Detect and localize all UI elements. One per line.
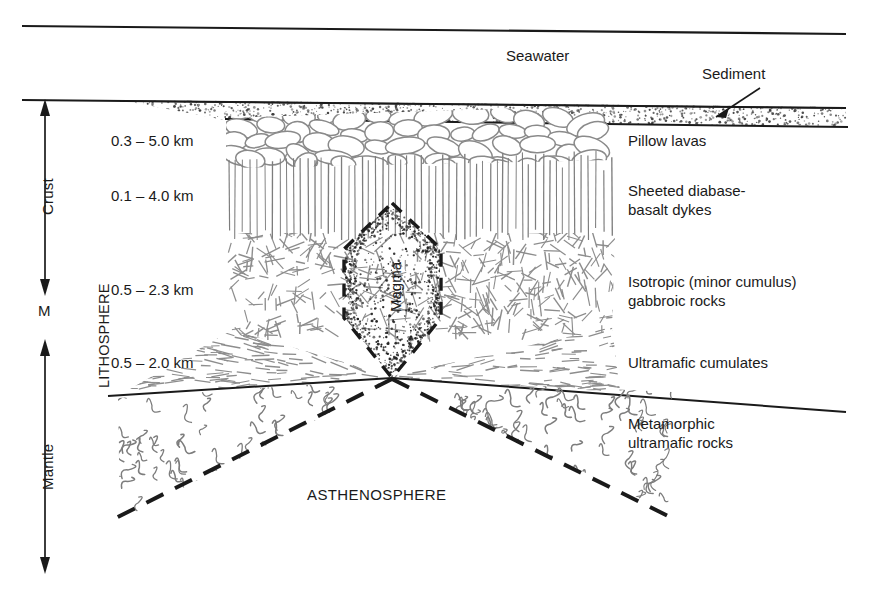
gabbro-texture xyxy=(227,225,618,344)
thickness-sheeted-dykes: 0.1 – 4.0 km xyxy=(111,186,194,205)
lithosphere-label: LITHOSPHERE xyxy=(95,283,114,388)
metamorphic-ultramafic-texture xyxy=(100,382,694,553)
layer-name-isotropic-gabbro: Isotropic (minor cumulus) gabbroic rocks xyxy=(628,272,796,310)
layer-name-sheeted-dykes: Sheeted diabase- basalt dykes xyxy=(628,181,746,219)
seawater-label: Seawater xyxy=(506,46,569,65)
moho-line xyxy=(108,378,846,412)
mantle-axis-label: Mantle xyxy=(38,444,57,490)
thickness-pillow-lavas: 0.3 – 5.0 km xyxy=(111,131,194,150)
thickness-ultramafic-cumulates: 0.5 – 2.0 km xyxy=(111,353,194,372)
figure-canvas: Seawater Sediment Crust M Mantle LITHOSP… xyxy=(0,0,871,601)
top-border-line xyxy=(22,26,846,34)
layer-name-ultramafic-cumulates: Ultramafic cumulates xyxy=(628,353,768,372)
pillow-lavas-texture xyxy=(219,100,613,189)
crust-axis-label: Crust xyxy=(38,178,57,215)
asthenosphere-label: ASTHENOSPHERE xyxy=(307,485,446,504)
magma-label: Magma xyxy=(386,262,405,312)
layer-name-metamorphic-ultramafic: Metamorphic ultramafic rocks xyxy=(628,414,733,452)
sediment-leader-arrow xyxy=(716,88,760,118)
sediment-label: Sediment xyxy=(702,64,765,83)
layer-name-pillow-lavas: Pillow lavas xyxy=(628,131,706,150)
thickness-isotropic-gabbro: 0.5 – 2.3 km xyxy=(111,280,194,299)
moho-axis-label: M xyxy=(38,301,51,320)
